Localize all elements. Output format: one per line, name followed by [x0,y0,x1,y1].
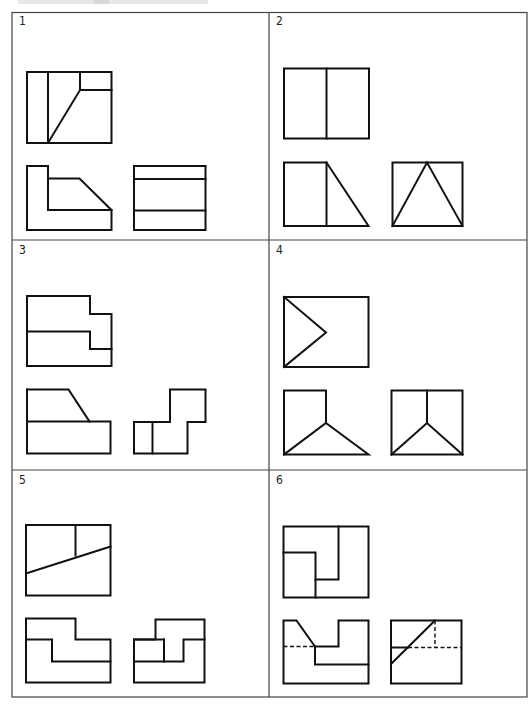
grid [12,13,527,698]
view-bottom-right [392,391,463,455]
view-bottom-left [284,391,369,455]
cell-4-drawing [284,297,463,455]
view-front [26,525,111,596]
view-front [27,296,112,366]
view-bottom-left [26,619,111,683]
view-front [284,69,369,139]
view-bottom-left [27,390,111,454]
view-bottom-right [134,620,205,683]
cell-4-label: 4 [276,244,283,256]
cell-5-drawing [26,525,205,683]
cell-5-label: 5 [19,474,26,486]
view-front [284,527,369,598]
view-bottom-left [27,166,112,230]
cell-2-label: 2 [276,15,283,27]
view-bottom-left [284,621,369,684]
exercise-sheet [0,0,530,707]
view-bottom-right-hidden [408,621,462,648]
view-bottom-right [391,621,462,684]
view-bottom-right [393,163,463,227]
cell-6-drawing [284,527,462,684]
cell-6-label: 6 [276,474,283,486]
cell-3-label: 3 [19,244,26,256]
view-bottom-right [134,390,206,454]
view-bottom-left [284,163,369,227]
view-front [284,297,369,367]
view-front [27,72,112,143]
cell-3-drawing [27,296,206,454]
cell-2-drawing [284,69,463,227]
cell-1-drawing [27,72,206,230]
cell-1-label: 1 [19,15,26,27]
view-bottom-right [134,166,206,230]
drawings [26,69,463,684]
